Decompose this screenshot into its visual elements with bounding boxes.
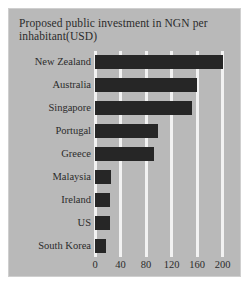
- x-tick-label-120: 120: [164, 259, 180, 271]
- bar-row: [95, 51, 229, 74]
- bar-row: [95, 120, 229, 143]
- category-label-south-korea: South Korea: [11, 240, 91, 252]
- x-tick-label-0: 0: [92, 259, 97, 271]
- bar-australia: [95, 78, 197, 92]
- x-tick-label-40: 40: [115, 259, 126, 271]
- bar-ireland: [95, 193, 110, 207]
- category-label-malaysia: Malaysia: [11, 171, 91, 183]
- chart-title-line-1: Proposed public investment in NGN per: [19, 17, 229, 30]
- bar-row: [95, 97, 229, 120]
- category-label-australia: Australia: [11, 79, 91, 91]
- bar-row: [95, 143, 229, 166]
- bar-greece: [95, 147, 154, 161]
- category-label-singapore: Singapore: [11, 102, 91, 114]
- x-tick-label-160: 160: [189, 259, 205, 271]
- category-label-ireland: Ireland: [11, 194, 91, 206]
- bar-row: [95, 188, 229, 211]
- bar-portugal: [95, 124, 158, 138]
- category-label-greece: Greece: [11, 148, 91, 160]
- bar-row: [95, 165, 229, 188]
- plot-area: [95, 51, 229, 257]
- bar-row: [95, 74, 229, 97]
- bar-row: [95, 211, 229, 234]
- category-axis: New ZealandAustraliaSingaporePortugalGre…: [9, 51, 91, 257]
- chart-title-line-2: inhabitant(USD): [19, 30, 229, 43]
- bar-singapore: [95, 101, 192, 115]
- bar-row: [95, 234, 229, 257]
- chart-panel: Proposed public investment in NGN per in…: [8, 8, 241, 277]
- category-label-us: US: [11, 217, 91, 229]
- chart-title: Proposed public investment in NGN per in…: [19, 17, 229, 43]
- bar-south-korea: [95, 239, 106, 253]
- category-label-portugal: Portugal: [11, 125, 91, 137]
- bar-malaysia: [95, 170, 111, 184]
- x-tick-label-200: 200: [215, 259, 231, 271]
- x-axis: 04080120160200: [95, 259, 229, 277]
- x-tick-label-80: 80: [141, 259, 152, 271]
- chart-image: Proposed public investment in NGN per in…: [0, 0, 249, 285]
- bar-new-zealand: [95, 55, 223, 69]
- bar-us: [95, 216, 110, 230]
- category-label-new-zealand: New Zealand: [11, 56, 91, 68]
